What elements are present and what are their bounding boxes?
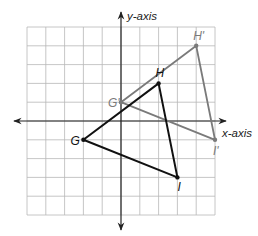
vertex-label: I' <box>213 144 219 158</box>
vertex-point <box>213 138 217 142</box>
vertex-point <box>81 138 85 142</box>
vertex-label: I <box>177 180 181 194</box>
x-axis-label: x-axis <box>221 127 252 139</box>
vertex-point <box>156 81 160 85</box>
triangles: G'H'I'GHI <box>70 29 219 195</box>
vertex-label: G' <box>108 96 120 110</box>
triangle-original: GHI <box>70 66 181 194</box>
triangle-original-outline <box>83 83 177 177</box>
vertex-label: H <box>156 66 165 80</box>
coordinate-plane: x-axis y-axis G'H'I'GHI <box>0 0 258 236</box>
y-axis-label: y-axis <box>126 10 157 22</box>
vertex-point <box>194 44 198 48</box>
vertex-point <box>175 175 179 179</box>
triangle-image: G'H'I' <box>108 29 219 158</box>
vertex-label: G <box>70 134 79 148</box>
vertex-label: H' <box>193 29 205 43</box>
